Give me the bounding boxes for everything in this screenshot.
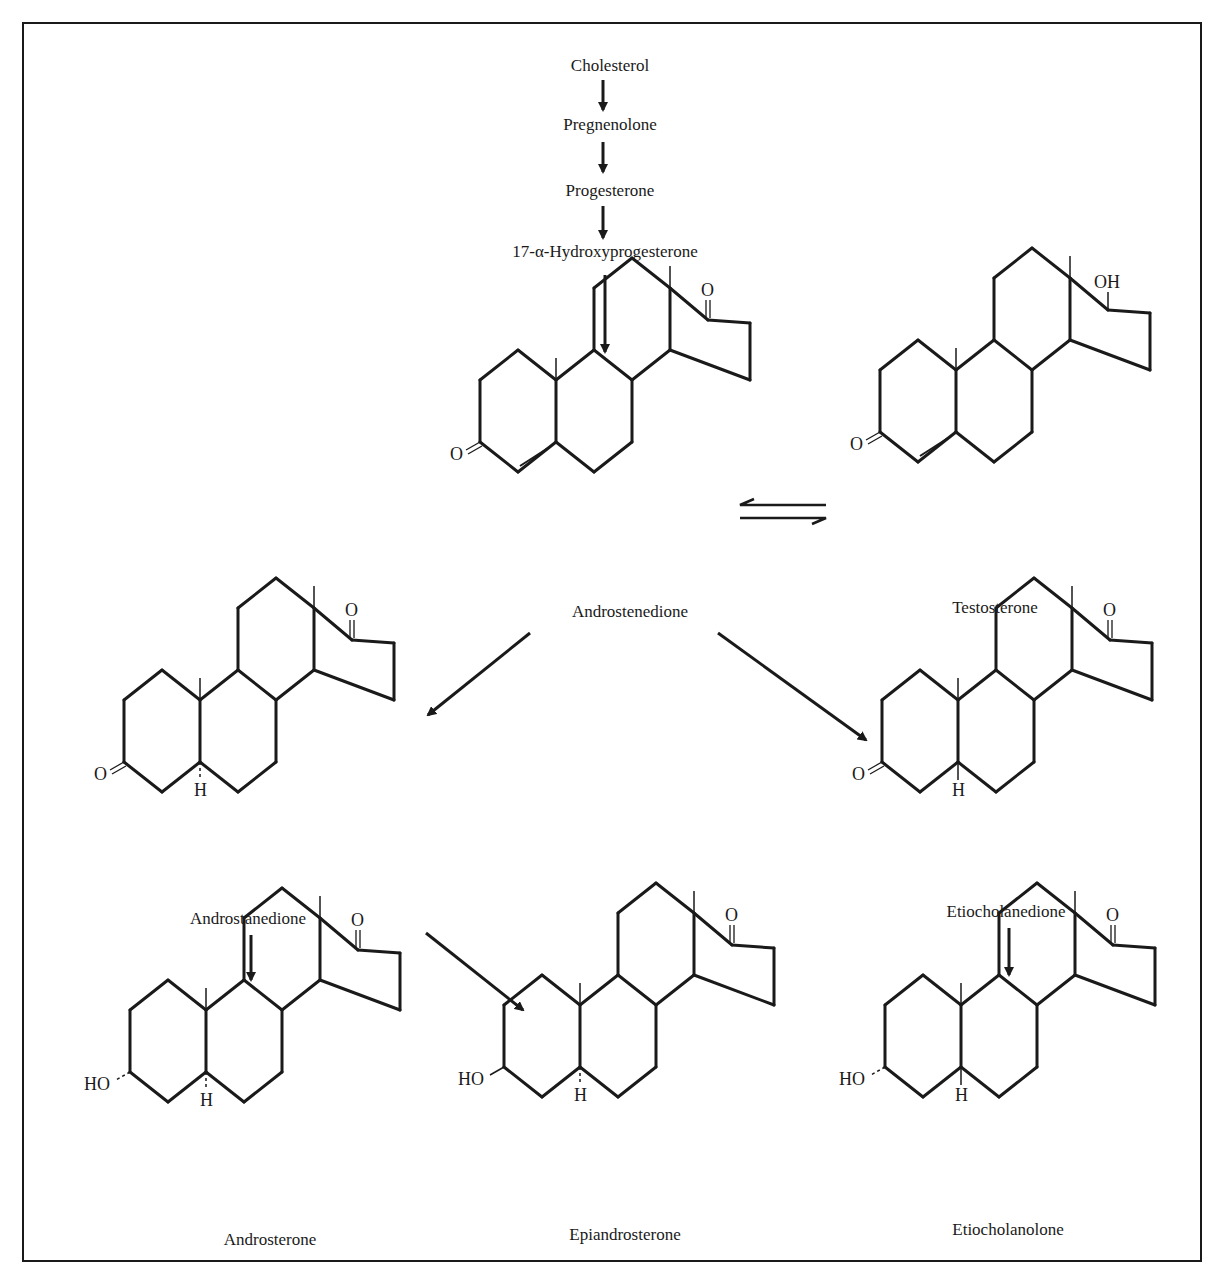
precursor-label: Cholesterol (571, 56, 649, 76)
reaction-arrow (718, 633, 866, 740)
svg-text:HO: HO (458, 1069, 484, 1089)
svg-text:H: H (952, 780, 965, 800)
compound-name-epiandrosterone: Epiandrosterone (569, 1225, 680, 1245)
reverse-half-arrow (740, 499, 826, 505)
svg-text:O: O (725, 905, 738, 925)
compound-name-androstenedione: Androstenedione (572, 602, 688, 622)
svg-text:HO: HO (84, 1074, 110, 1094)
svg-text:O: O (345, 600, 358, 620)
svg-text:H: H (955, 1085, 968, 1105)
compound-name-etiocholanedione: Etiocholanedione (947, 902, 1066, 922)
compound-name-etiocholanolone: Etiocholanolone (952, 1220, 1063, 1240)
molecule-testosterone: OOH (850, 248, 1150, 462)
molecule-epiandrosterone: HOOH (458, 883, 774, 1105)
compound-name-testosterone: Testosterone (952, 598, 1038, 618)
reaction-arrow (428, 633, 530, 715)
svg-text:OH: OH (1094, 272, 1120, 292)
reaction-arrows (251, 80, 1009, 1010)
svg-text:H: H (574, 1085, 587, 1105)
molecule-androstanedione: OOH (94, 578, 394, 800)
svg-text:O: O (850, 434, 863, 454)
svg-text:H: H (200, 1090, 213, 1110)
compound-name-androstanedione: Androstanedione (190, 909, 306, 929)
compound-name-androsterone: Androsterone (224, 1230, 317, 1250)
svg-text:H: H (194, 780, 207, 800)
svg-text:O: O (351, 910, 364, 930)
svg-text:O: O (94, 764, 107, 784)
svg-text:HO: HO (839, 1069, 865, 1089)
forward-half-arrow (740, 518, 826, 524)
svg-text:O: O (1103, 600, 1116, 620)
precursor-label: 17-α-Hydroxyprogesterone (512, 242, 697, 262)
molecule-structures: OOOOHOOHOOHHOOHHOOHHOOH (84, 248, 1155, 1110)
svg-text:O: O (450, 444, 463, 464)
molecule-androstenedione: OO (450, 258, 750, 472)
svg-text:O: O (1106, 905, 1119, 925)
svg-text:O: O (852, 764, 865, 784)
reaction-arrow (426, 933, 523, 1010)
precursor-label: Progesterone (566, 181, 655, 201)
svg-text:O: O (701, 280, 714, 300)
equilibrium-arrows (740, 499, 826, 524)
precursor-label: Pregnenolone (563, 115, 656, 135)
